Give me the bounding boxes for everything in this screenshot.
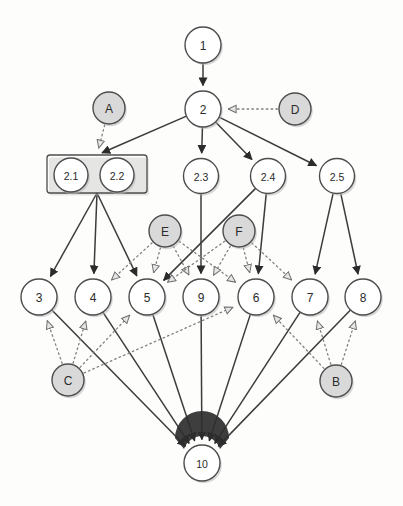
edge-n2-to-n24 [216, 122, 252, 160]
node-8[interactable]: 8 [345, 279, 383, 317]
node-circle[interactable] [21, 279, 57, 315]
dotted-edge-nF-to-n7 [252, 243, 292, 280]
node-circle[interactable] [184, 159, 219, 194]
node-circle[interactable] [129, 279, 165, 315]
edge-box-to-n4 [94, 193, 97, 274]
diagram-canvas: 12AD2.12.22.32.42.5EF3459678CB10 [0, 0, 403, 506]
node-5[interactable]: 5 [129, 279, 167, 317]
node-circle[interactable] [75, 279, 111, 315]
node-circle[interactable] [238, 279, 274, 315]
node-circle[interactable] [320, 159, 355, 194]
node-F[interactable]: F [223, 215, 257, 249]
node-2-3[interactable]: 2.3 [184, 159, 221, 196]
node-circle[interactable] [292, 279, 328, 315]
node-1[interactable]: 1 [185, 27, 223, 65]
edge-n24-to-n6 [258, 193, 266, 273]
node-circle[interactable] [184, 445, 220, 481]
node-A[interactable]: A [93, 92, 127, 126]
dotted-edge-nB-to-n8 [341, 321, 355, 364]
node-circle[interactable] [279, 93, 311, 125]
node-2[interactable]: 2 [185, 91, 223, 129]
node-circle[interactable] [183, 279, 219, 315]
node-2-5[interactable]: 2.5 [320, 159, 357, 196]
edge-box-to-n3 [50, 193, 97, 276]
node-circle[interactable] [320, 365, 352, 397]
dotted-edge-nE-to-n5 [154, 248, 161, 273]
edge-n25-to-n7 [315, 193, 333, 274]
nodes-layer: 12AD2.12.22.32.42.5EF3459678CB10 [21, 27, 383, 483]
dotted-edge-nE-to-n9 [173, 246, 188, 274]
node-circle[interactable] [223, 215, 255, 247]
edge-n7-to-n10 [215, 312, 300, 443]
node-circle[interactable] [100, 158, 134, 192]
node-6[interactable]: 6 [238, 279, 276, 317]
dotted-edge-nC-to-n3 [47, 321, 62, 363]
node-circle[interactable] [251, 159, 286, 194]
node-10[interactable]: 10 [184, 445, 222, 483]
node-circle[interactable] [93, 92, 125, 124]
node-circle[interactable] [149, 215, 181, 247]
edge-box-to-n5 [97, 193, 137, 276]
node-C[interactable]: C [52, 364, 86, 398]
node-circle[interactable] [52, 364, 84, 396]
node-B[interactable]: B [320, 365, 354, 399]
node-9[interactable]: 9 [183, 279, 221, 317]
node-circle[interactable] [185, 27, 221, 63]
dotted-edge-nF-to-n6 [243, 248, 249, 272]
node-D[interactable]: D [279, 93, 313, 127]
node-2-4[interactable]: 2.4 [251, 159, 288, 196]
node-circle[interactable] [54, 158, 88, 192]
node-7[interactable]: 7 [292, 279, 330, 317]
dotted-edge-nE-to-n6 [179, 241, 235, 282]
dotted-edge-nA-to-box [99, 125, 105, 148]
dotted-edge-nE-to-n4 [112, 243, 152, 280]
arrowhead-convergence-fan [175, 411, 229, 449]
edge-n2-to-n23 [202, 127, 203, 153]
node-3[interactable]: 3 [21, 279, 59, 317]
edge-n25-to-n8 [341, 193, 358, 274]
graph-svg: 12AD2.12.22.32.42.5EF3459678CB10 [0, 0, 403, 506]
dotted-edge-nF-to-n9 [214, 246, 231, 275]
node-circle[interactable] [345, 279, 381, 315]
node-E[interactable]: E [149, 215, 183, 249]
node-4[interactable]: 4 [75, 279, 113, 317]
node-circle[interactable] [185, 91, 221, 127]
